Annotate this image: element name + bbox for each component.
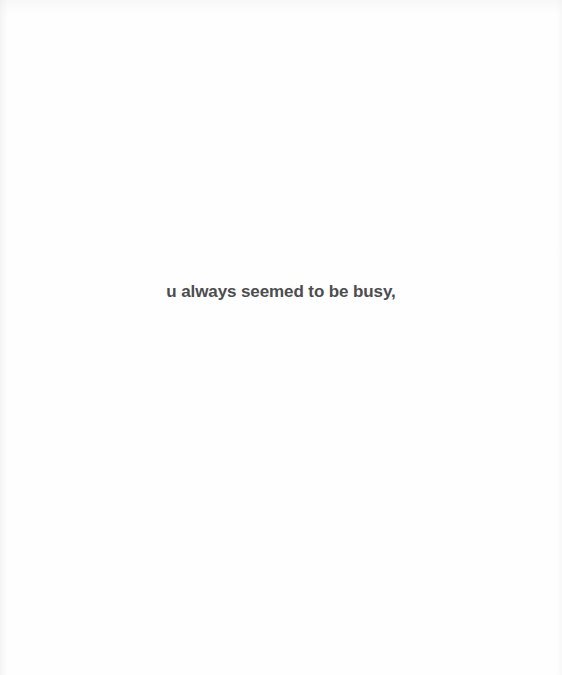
slide-page: u always seemed to be busy, [0,0,562,675]
slide-caption: u always seemed to be busy, [0,281,562,303]
right-edge-shading [556,0,562,675]
left-edge-shading [0,0,8,675]
top-edge-shading [0,0,562,14]
